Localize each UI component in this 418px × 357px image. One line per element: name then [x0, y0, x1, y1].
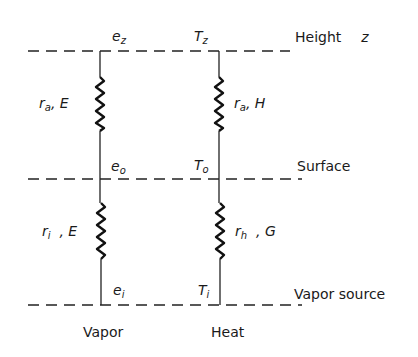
- resistor-label-ri-e: ri , E: [42, 224, 77, 238]
- node-ti: Ti: [198, 283, 209, 297]
- flux-symbol: H: [255, 95, 266, 111]
- node-tz: Tz: [194, 29, 208, 43]
- resistor-label-ra-h: ra, H: [234, 96, 265, 110]
- node-var: T: [194, 157, 203, 173]
- resistor-symbol: r: [235, 223, 241, 239]
- diagram-lines: [0, 0, 418, 357]
- level-label-vapor-source: Vapor source: [294, 287, 385, 301]
- node-to: To: [194, 158, 209, 172]
- resistance-network-diagram: ez eo ei Tz To Ti ra, E ri , E ra, H rh …: [0, 0, 418, 357]
- resistor-ra-vapor-icon: [96, 77, 104, 131]
- resistor-symbol: r: [42, 223, 48, 239]
- resistor-sub: i: [48, 230, 51, 241]
- column-label-vapor: Vapor: [83, 325, 123, 339]
- node-var: e: [113, 282, 122, 298]
- resistor-label-rh-g: rh , G: [235, 224, 276, 238]
- resistor-symbol: r: [234, 95, 240, 111]
- separator: ,: [59, 223, 63, 239]
- resistor-sub: h: [241, 230, 247, 241]
- node-sub: z: [203, 35, 208, 46]
- column-label-heat: Heat: [211, 325, 244, 339]
- node-var: T: [194, 28, 203, 44]
- resistor-label-ra-e: ra, E: [39, 96, 69, 110]
- flux-symbol: G: [265, 223, 276, 239]
- node-var: e: [111, 158, 120, 174]
- node-sub: z: [121, 35, 126, 46]
- node-sub: o: [203, 164, 209, 175]
- node-ez: ez: [112, 29, 126, 43]
- node-sub: i: [122, 289, 125, 300]
- node-ei: ei: [113, 283, 124, 297]
- resistor-ra-heat-icon: [215, 77, 223, 131]
- resistor-symbol: r: [39, 95, 45, 111]
- node-eo: eo: [111, 159, 126, 173]
- resistor-ri-vapor-icon: [97, 203, 105, 259]
- separator: ,: [246, 95, 250, 111]
- resistor-rh-heat-icon: [216, 203, 224, 259]
- flux-symbol: E: [60, 95, 69, 111]
- node-sub: i: [207, 289, 210, 300]
- flux-symbol: E: [68, 223, 77, 239]
- resistor-sub: a: [240, 102, 246, 113]
- node-sub: o: [120, 165, 126, 176]
- separator: ,: [256, 223, 260, 239]
- level-label-surface: Surface: [297, 159, 350, 173]
- height-label: Height: [295, 29, 341, 45]
- level-label-height: Heightz: [295, 30, 369, 44]
- node-var: e: [112, 28, 121, 44]
- height-symbol: z: [361, 29, 368, 45]
- node-var: T: [198, 282, 207, 298]
- resistor-sub: a: [45, 102, 51, 113]
- separator: ,: [51, 95, 55, 111]
